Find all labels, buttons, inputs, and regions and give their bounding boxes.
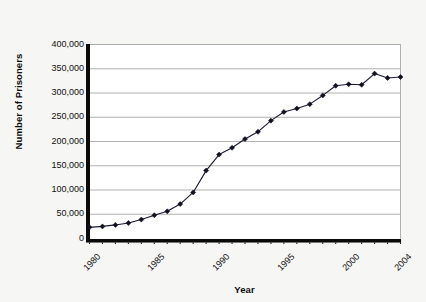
x-axis-tick-labels: 198019851990199520002004 [0, 0, 426, 302]
x-axis-title: Year [89, 284, 400, 295]
chart-container: Number of Prisoners 050,000100,000150,00… [0, 0, 426, 302]
